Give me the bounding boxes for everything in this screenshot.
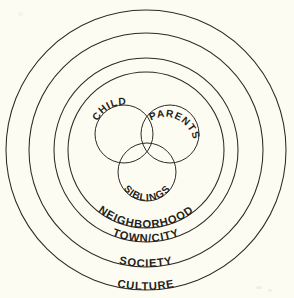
venn-label-child: CHILD — [90, 96, 127, 123]
venn-label-parents: PARENTS — [147, 108, 202, 141]
ring-label-neighborhood: NEIGHBORHOOD — [97, 203, 196, 230]
venn-label-siblings: SIBLINGS — [122, 183, 173, 203]
diagram-canvas: CULTURE SOCIETY TOWN/CITY NEIGHBORHOOD C… — [0, 0, 294, 298]
ring-label-culture: CULTURE — [117, 277, 176, 292]
nested-context-diagram: CULTURE SOCIETY TOWN/CITY NEIGHBORHOOD C… — [0, 0, 294, 298]
ring-label-society: SOCIETY — [118, 254, 173, 269]
